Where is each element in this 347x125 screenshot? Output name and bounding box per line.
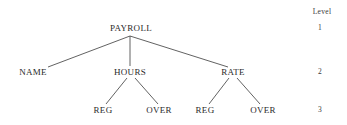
node-payroll: PAYROLL	[110, 24, 152, 33]
node-hours-reg: REG	[94, 106, 113, 115]
edge-hours-reg	[106, 78, 127, 104]
node-rate-over: OVER	[250, 106, 276, 115]
edge-hours-over	[135, 78, 158, 104]
edge-rate-over	[237, 78, 260, 104]
node-name: NAME	[19, 68, 47, 77]
edge-payroll-name	[48, 36, 130, 67]
node-rate: RATE	[221, 68, 245, 77]
node-hours: HOURS	[114, 68, 146, 77]
tree-edges	[0, 0, 347, 125]
level-2: 2	[318, 68, 322, 76]
level-1: 1	[318, 24, 322, 32]
payroll-tree-diagram: PAYROLL NAME HOURS RATE REG OVER REG OVE…	[0, 0, 347, 125]
edge-rate-reg	[209, 78, 229, 104]
level-header: Level	[313, 8, 332, 16]
edge-payroll-rate	[130, 36, 228, 67]
node-hours-over: OVER	[146, 106, 172, 115]
level-3: 3	[318, 106, 322, 114]
node-rate-reg: REG	[196, 106, 215, 115]
